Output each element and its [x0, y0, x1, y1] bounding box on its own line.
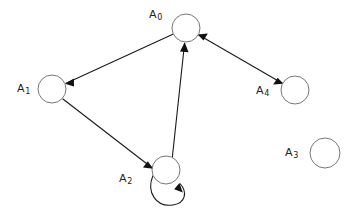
node-a4-label: A4 — [256, 85, 269, 96]
node-a0-label-sub: 0 — [157, 13, 162, 22]
node-a2-circle[interactable] — [152, 156, 180, 184]
edge-a1-a2 — [63, 99, 154, 169]
node-a3-label-main: A — [285, 146, 293, 159]
node-a1-circle[interactable] — [38, 75, 66, 103]
node-a4-circle[interactable] — [281, 76, 309, 104]
edge-a1-a2-line — [63, 99, 153, 169]
node-a3-label: A3 — [285, 147, 298, 158]
edge-a0-a4 — [198, 34, 284, 85]
edge-a2-a0-line — [172, 43, 184, 158]
node-a4-label-sub: 4 — [264, 89, 269, 98]
edge-a0-a1-line — [66, 34, 174, 83]
graph-svg — [0, 0, 356, 217]
edge-a0-a4-line — [198, 35, 282, 84]
node-a1-label: A1 — [17, 83, 30, 94]
node-a0-label: A0 — [149, 9, 162, 20]
edge-a0-a1 — [65, 34, 173, 87]
node-a0-label-main: A — [149, 8, 157, 21]
node-a1-label-main: A — [17, 82, 25, 95]
node-a1-label-sub: 1 — [25, 87, 30, 96]
node-a2-label-main: A — [119, 172, 127, 185]
graph-canvas: A0 A1 A2 A3 A4 — [0, 0, 356, 217]
node-a0-circle[interactable] — [172, 14, 200, 42]
loop-a2-arrowhead — [174, 183, 183, 193]
edge-a0-a1-arrowhead-target — [65, 78, 74, 86]
node-a4-label-main: A — [256, 84, 264, 97]
node-a2-label-sub: 2 — [127, 177, 132, 186]
node-a3-label-sub: 3 — [293, 151, 298, 160]
node-a2-label: A2 — [119, 173, 132, 184]
edge-a2-a0 — [172, 42, 188, 158]
edge-a2-a0-arrowhead-target — [180, 42, 189, 52]
node-a3-circle[interactable] — [310, 138, 340, 168]
